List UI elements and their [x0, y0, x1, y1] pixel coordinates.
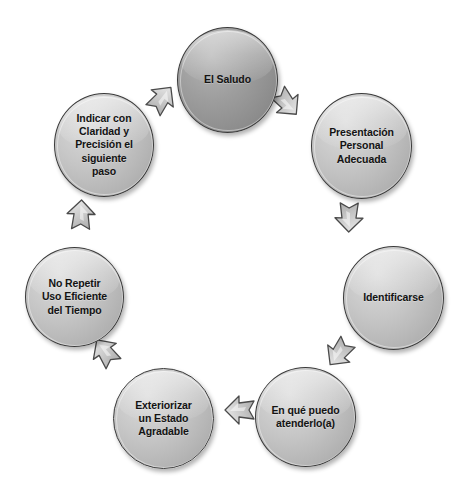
label-line: En qué puedo: [271, 404, 339, 416]
label-line: paso: [92, 165, 116, 177]
label-line: Personal: [340, 139, 384, 151]
label-line: siguiente: [81, 152, 126, 164]
label-line: Precisión el: [75, 138, 133, 150]
label-line: Exteriorizar: [135, 399, 192, 411]
cycle-node-label-3: Identificarse: [356, 291, 431, 304]
cycle-node-label-5: Exteriorizar un Estado Agradable: [128, 399, 199, 439]
label-line: Agradable: [138, 425, 188, 437]
label-line: del Tiempo: [47, 304, 101, 316]
cycle-node-label-6: No Repetir Uso Eficiente del Tiempo: [35, 277, 114, 317]
cycle-node-exteriorizar-un-estado-agradable[interactable]: Exteriorizar un Estado Agradable: [113, 368, 214, 469]
cycle-node-el-saludo[interactable]: El Saludo: [177, 27, 278, 133]
cycle-node-label-4: En qué puedo atenderlo(a): [264, 404, 346, 430]
label-line: Presentación: [329, 126, 394, 138]
label-line: Claridad y: [79, 125, 129, 137]
cycle-diagram: El Saludo Presentación Personal Adecuada…: [0, 0, 456, 495]
cycle-node-no-repetir-uso-eficiente-del-tiempo[interactable]: No Repetir Uso Eficiente del Tiempo: [25, 247, 124, 347]
label-line: atenderlo(a): [276, 417, 335, 429]
cycle-node-label-2: Presentación Personal Adecuada: [322, 126, 401, 166]
label-line: Uso Eficiente: [42, 290, 107, 302]
cycle-node-identificarse[interactable]: Identificarse: [343, 246, 444, 350]
cycle-node-en-que-puedo-atenderlo[interactable]: En qué puedo atenderlo(a): [255, 367, 356, 467]
label-line: No Repetir: [48, 277, 100, 289]
cycle-node-label-1: El Saludo: [197, 73, 258, 86]
cycle-node-label-7: Indicar con Claridad y Precisión el sigu…: [68, 112, 140, 178]
connector-arrow-7: [60, 195, 101, 236]
cycle-node-presentacion-personal-adecuada[interactable]: Presentación Personal Adecuada: [311, 93, 412, 199]
label-line: Indicar con: [77, 112, 132, 124]
label-line: un Estado: [139, 412, 189, 424]
cycle-node-indicar-con-claridad-y-precision[interactable]: Indicar con Claridad y Precisión el sigu…: [54, 93, 154, 197]
label-line: Adecuada: [337, 153, 386, 165]
connector-arrow-3: [329, 196, 370, 237]
